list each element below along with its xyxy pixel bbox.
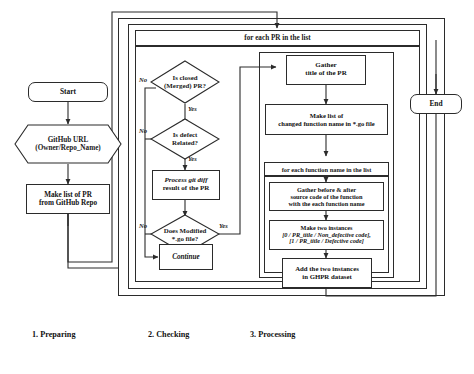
node-continue: Continue — [159, 244, 213, 270]
node-gather-source: Gather before & after source code of the… — [269, 182, 384, 211]
node-make-list-function: Make list of changed function name in *.… — [265, 104, 388, 135]
loop-header-pr: for each PR in the list — [135, 30, 420, 46]
node-end-label: End — [429, 100, 442, 108]
node-github-url-line1: GitHub URL — [35, 136, 100, 144]
node-start-label: Start — [60, 88, 76, 96]
edge-label-no-closed: No — [139, 76, 147, 83]
node-is-defect-line2: Related? — [172, 139, 198, 147]
caption-processing: 3. Processing — [250, 330, 295, 339]
node-make-list-pr-line1: Make list of PR — [44, 191, 92, 199]
node-does-modified-go-line1: Does Modified — [164, 227, 207, 235]
node-add-two-instances: Add the two instances in GHPR dataset — [282, 258, 372, 288]
edge-label-no-go: No — [139, 222, 147, 229]
node-gather-title: Gather title of the PR — [286, 55, 366, 85]
node-is-defect: Is defect Related? — [150, 118, 220, 160]
node-end: End — [410, 94, 462, 114]
node-add-two-instances-line1: Add the two instances — [295, 265, 359, 273]
edge-label-yes-closed: Yes — [188, 105, 197, 112]
node-gather-source-line2: source code of the function — [291, 193, 363, 200]
node-does-modified-go-line2: *.go file? — [164, 235, 207, 243]
edge-label-yes-defect: Yes — [188, 155, 197, 162]
edge-label-no-defect: No — [139, 127, 147, 134]
node-gather-source-line1: Gather before & after — [297, 186, 356, 193]
node-github-url: GitHub URL (Owner/Repo_Name) — [14, 124, 122, 164]
node-make-two-instances: Make two instances [0 / PR_title / Non_d… — [269, 220, 384, 250]
loop-header-pr-label: for each PR in the list — [244, 34, 310, 42]
node-add-two-instances-line2: in GHPR dataset — [302, 273, 351, 281]
node-make-two-instances-line3: [1 / PR_title / Defective code] — [289, 238, 363, 245]
flowchart-canvas: for each PR in the list for each functio… — [0, 0, 474, 374]
node-start: Start — [28, 82, 108, 102]
node-continue-label: Continue — [172, 253, 200, 261]
node-is-closed-line1: Is closed — [164, 74, 206, 82]
node-github-url-line2: (Owner/Repo_Name) — [35, 144, 100, 152]
caption-preparing: 1. Preparing — [32, 330, 76, 339]
node-is-defect-line1: Is defect — [172, 131, 198, 139]
node-process-git-diff: Process git diff result of the PR — [152, 170, 220, 200]
node-gather-source-line3: with the each function name — [289, 200, 365, 207]
loop-header-function-label: for each function name in the list — [282, 166, 372, 173]
node-make-list-function-line2: changed function name in *.go file — [278, 120, 374, 127]
node-make-list-pr: Make list of PR from GitHub Repo — [26, 184, 110, 214]
node-is-closed-line2: (Merged) PR? — [164, 82, 206, 90]
node-process-git-diff-line2: result of the PR — [163, 185, 210, 193]
caption-checking: 2. Checking — [148, 330, 189, 339]
edge-label-yes-go: Yes — [219, 222, 228, 229]
node-make-list-function-line1: Make list of — [310, 112, 343, 119]
node-gather-title-line2: title of the PR — [305, 70, 346, 78]
node-make-list-pr-line2: from GitHub Repo — [39, 199, 97, 207]
loop-header-function: for each function name in the list — [264, 162, 389, 176]
node-is-closed: Is closed (Merged) PR? — [150, 60, 220, 104]
